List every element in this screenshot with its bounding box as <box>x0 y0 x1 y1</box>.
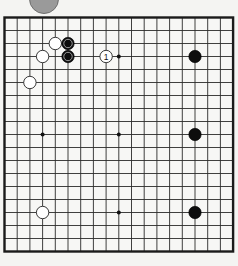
go-board-grid[interactable]: 1 <box>0 0 238 266</box>
star-point <box>117 211 121 215</box>
go-board[interactable]: 1 <box>0 0 238 266</box>
black-stone[interactable] <box>189 206 201 218</box>
star-point <box>117 133 121 137</box>
star-point <box>117 55 121 59</box>
black-stone[interactable] <box>189 50 201 62</box>
move-number-label: 1 <box>104 52 109 62</box>
white-stone[interactable] <box>24 76 36 88</box>
white-stone[interactable] <box>36 206 48 218</box>
white-stone[interactable] <box>36 50 48 62</box>
white-stone[interactable] <box>49 37 61 49</box>
black-stone[interactable] <box>189 128 201 140</box>
star-point <box>41 133 45 137</box>
